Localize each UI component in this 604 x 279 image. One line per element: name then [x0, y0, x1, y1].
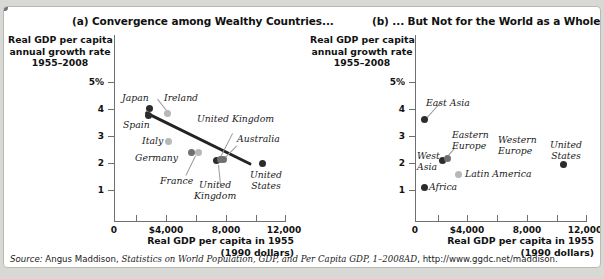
panel-a-label-us-line1: United — [250, 170, 282, 181]
panel-b-y-axis-label-line1: Real GDP per capita — [310, 34, 414, 46]
panel-a-xtick-6 — [285, 215, 286, 221]
panel-a-point-germany — [188, 149, 195, 156]
panel-b-label-east-asia: East Asia — [426, 98, 470, 109]
panel-b-label-western-europe-line2: Europe — [498, 146, 537, 157]
panel-a-ytick-label-2: 2 — [76, 158, 104, 168]
panel-b-x-axis-label-line1: Real GDP per capita in 1955 — [414, 235, 594, 247]
panel-b-label-united-states: United States — [550, 140, 582, 161]
panel-a-y-axis-label-line3: 1955–2008 — [8, 57, 112, 69]
panel-b-title: (b) ... But Not for the World as a Whole — [372, 15, 600, 27]
panel-b-label-us-line1: United — [550, 140, 582, 151]
panel-b-label-west-asia-line2: Asia — [417, 162, 440, 173]
panel-b-xtick-label-4000: $4,000 — [441, 225, 493, 235]
panel-b-y-axis-label-line3: 1955–2008 — [310, 57, 414, 69]
panel-a-label-japan: Japan — [122, 93, 149, 104]
panel-b-ytick-label-1: 1 — [377, 185, 405, 195]
panel-a-y-axis-label: Real GDP per capita annual growth rate 1… — [8, 34, 112, 69]
panel-a-ytick-3 — [108, 136, 114, 137]
panel-a-label-uk-line2: Kingdom — [194, 191, 236, 202]
panel-a-label-ireland: Ireland — [164, 93, 198, 104]
source-work-title: Statistics on World Population, GDP, and… — [121, 254, 417, 264]
panel-b-xtick-label-0: 0 — [401, 225, 429, 235]
panel-b-xtick-label-8000: 8,000 — [501, 225, 553, 235]
panel-b-point-eastern-europe — [444, 155, 451, 162]
panel-b-label-eastern-europe-line2: Europe — [452, 141, 489, 152]
panel-a-ytick-2 — [108, 163, 114, 164]
panel-a-label-france: France — [160, 176, 193, 187]
source-url: , http://www.ggdc.net/maddison. — [417, 254, 558, 264]
panel-b-label-us-line2: States — [550, 151, 582, 162]
panel-b-y-axis-label: Real GDP per capita annual growth rate 1… — [310, 34, 414, 69]
panel-b-label-eastern-europe-line1: Eastern — [452, 130, 489, 141]
panel-a-title: (a) Convergence among Wealthy Countries.… — [72, 15, 334, 27]
source-author: Angus Maddison, — [43, 254, 122, 264]
panel-a-point-ireland — [164, 110, 171, 117]
panel-a-xtick-1 — [136, 215, 137, 221]
panel-a-x-axis — [114, 221, 286, 222]
panel-b-xtick-3 — [497, 215, 498, 221]
panel-b-ytick-2 — [409, 163, 415, 164]
panel-a-xtick-2 — [166, 215, 167, 221]
panel-b-ytick-label-3: 3 — [377, 131, 405, 141]
panel-a-xtick-5 — [256, 215, 257, 221]
panel-b-xtick-5 — [557, 215, 558, 221]
panel-b-label-latin-america: Latin America — [465, 169, 532, 180]
panel-b-ytick-label-4: 4 — [377, 104, 405, 114]
panel-b-y-axis-label-line2: annual growth rate — [310, 46, 414, 58]
source-label: Source: — [10, 254, 43, 264]
panel-a-ytick-1 — [108, 190, 114, 191]
panel-a-point-japan — [146, 105, 153, 112]
panel-a-point-spain — [145, 112, 152, 119]
panel-a-x-axis-label-line1: Real GDP per capita in 1955 — [114, 235, 294, 247]
panel-a-xtick-label-8000: 8,000 — [200, 225, 252, 235]
panel-a-label-us-line2: States — [250, 181, 282, 192]
panel-a-point-italy — [165, 138, 172, 145]
panel-a-label-united-states: United States — [250, 170, 282, 191]
panel-a-leader-france — [185, 156, 196, 176]
panel-b-label-eastern-europe: Eastern Europe — [452, 130, 489, 151]
panel-a-ytick-label-4: 4 — [76, 104, 104, 114]
panel-b-ytick-1 — [409, 190, 415, 191]
panel-a-label-spain: Spain — [123, 120, 150, 131]
panel-a-xtick-label-0: 0 — [100, 225, 128, 235]
panel-a-point-canada — [220, 156, 227, 163]
panel-b-ytick-5 — [409, 82, 415, 83]
panel-a-ytick-label-3: 3 — [76, 131, 104, 141]
figure-container: (a) Convergence among Wealthy Countries.… — [3, 6, 601, 268]
panel-b-ytick-4 — [409, 109, 415, 110]
panel-b-point-latin-america — [455, 171, 462, 178]
panel-a-xtick-label-4000: $4,000 — [140, 225, 192, 235]
panel-b-y-axis — [415, 35, 416, 222]
panel-a-label-australia: United Kingdom — [197, 114, 274, 125]
panel-b-label-africa: Africa — [429, 182, 457, 193]
panel-a-label-uk-line1: United — [194, 180, 236, 191]
panel-b-xtick-label-12000: 12,000 — [559, 225, 601, 235]
panel-a-ytick-4 — [108, 109, 114, 110]
panel-b-point-africa — [421, 184, 428, 191]
panel-b-xtick-2 — [467, 215, 468, 221]
panel-a-ytick-label-5: 5% — [76, 77, 104, 87]
panel-a-ytick-label-1: 1 — [76, 185, 104, 195]
panel-a-point-france — [195, 149, 202, 156]
panel-a-label-germany: Germany — [135, 153, 178, 164]
panel-b-point-western-europe — [3, 6, 8, 11]
panel-b-label-west-asia-line1: West — [417, 151, 440, 162]
panel-a-y-axis-label-line1: Real GDP per capita — [8, 34, 112, 46]
panel-b-label-western-europe-line1: Western — [498, 135, 537, 146]
panel-b-point-united-states — [560, 161, 567, 168]
panel-b-xtick-4 — [527, 215, 528, 221]
panel-a-xtick-label-12000: 12,000 — [258, 225, 310, 235]
panel-a-label-united-kingdom: United Kingdom — [194, 180, 236, 201]
panel-b-x-axis — [415, 221, 587, 222]
panel-b-point-east-asia — [421, 116, 428, 123]
panel-a-label-canada: Australia — [237, 134, 280, 145]
panel-b-label-western-europe: Western Europe — [498, 135, 537, 156]
panel-a-point-united-states — [259, 160, 266, 167]
panel-b-xtick-6 — [586, 215, 587, 221]
panel-a-y-axis — [114, 35, 115, 222]
panel-b-label-west-asia: West Asia — [417, 151, 440, 172]
panel-b-xtick-1 — [438, 215, 439, 221]
panel-a-label-italy: Italy — [142, 136, 163, 147]
panel-b-ytick-label-2: 2 — [377, 158, 405, 168]
panel-a-xtick-4 — [226, 215, 227, 221]
